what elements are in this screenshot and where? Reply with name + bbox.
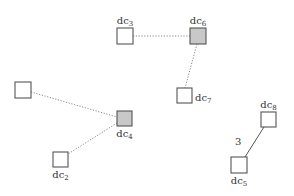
node-box[interactable] bbox=[261, 112, 276, 127]
node-dc2[interactable]: dc2 bbox=[52, 152, 68, 182]
node-label: dc7 bbox=[195, 92, 211, 105]
edge-unlabeled-dc4 bbox=[31, 92, 117, 117]
node-label: dc2 bbox=[52, 169, 68, 182]
node-label: dc4 bbox=[116, 128, 133, 141]
node-box[interactable] bbox=[53, 152, 68, 167]
dotted-edge bbox=[185, 44, 197, 88]
node-dc7[interactable]: dc7 bbox=[177, 88, 211, 105]
node-box[interactable] bbox=[15, 82, 31, 98]
node-label: dc8 bbox=[260, 99, 276, 112]
node-dc5[interactable]: dc5 bbox=[231, 157, 247, 188]
edge-weight-label: 3 bbox=[235, 136, 241, 147]
node-label: dc5 bbox=[231, 175, 247, 188]
node-label: dc3 bbox=[117, 15, 133, 28]
node-box[interactable] bbox=[231, 157, 247, 173]
edge-dc4-dc2 bbox=[68, 123, 117, 154]
node-dc4[interactable]: dc4 bbox=[116, 111, 133, 141]
node-box[interactable] bbox=[117, 28, 133, 44]
dotted-edge bbox=[68, 123, 117, 154]
node-box[interactable] bbox=[177, 88, 192, 103]
solid-edge bbox=[245, 127, 264, 157]
node-dc8[interactable]: dc8 bbox=[260, 99, 276, 127]
node-label: dc6 bbox=[190, 15, 207, 28]
node-unlabeled[interactable] bbox=[15, 82, 31, 98]
edges-layer: 3 bbox=[31, 36, 264, 157]
node-dc3[interactable]: dc3 bbox=[117, 15, 133, 44]
dotted-edge bbox=[31, 92, 117, 117]
diagram-canvas: 3 dc3dc6dc7dc4dc2dc8dc5 bbox=[0, 0, 294, 196]
edge-dc8-dc5: 3 bbox=[235, 127, 264, 157]
edge-dc6-dc7 bbox=[185, 44, 197, 88]
node-dc6[interactable]: dc6 bbox=[190, 15, 207, 44]
nodes-layer: dc3dc6dc7dc4dc2dc8dc5 bbox=[15, 15, 277, 188]
highlighted-node-box[interactable] bbox=[190, 28, 206, 44]
highlighted-node-box[interactable] bbox=[117, 111, 132, 126]
